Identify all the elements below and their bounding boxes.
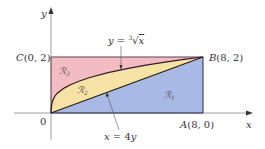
point-a-label: A(8, 0) <box>179 119 214 130</box>
x-axis-label: x <box>246 119 252 130</box>
line-label: x = 4y <box>104 131 137 142</box>
y-axis-arrow-icon <box>49 7 54 14</box>
x-axis-arrow-icon <box>246 111 253 116</box>
point-c-label: C(0, 2) <box>16 52 51 63</box>
region-diagram: y x 0 C(0, 2) B(8, 2) A(8, 0) y = 3√x x … <box>0 0 265 149</box>
point-b-label: B(8, 2) <box>208 52 243 63</box>
y-axis-label: y <box>40 8 47 19</box>
cube-root-label: y = 3√x <box>107 34 145 46</box>
origin-label: 0 <box>40 116 46 127</box>
